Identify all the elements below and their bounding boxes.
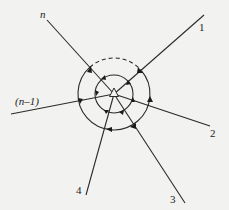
arrow-icon xyxy=(147,96,153,102)
label-1: 1 xyxy=(199,21,205,33)
node-triangle-icon xyxy=(110,88,119,97)
outer-loop-dashed-arc xyxy=(90,58,141,70)
branch-2 xyxy=(114,94,210,126)
label-3: 3 xyxy=(170,193,176,205)
label-4: 4 xyxy=(76,184,82,196)
label-n: n xyxy=(40,8,46,20)
label-n-minus-1: (n–1) xyxy=(15,95,39,108)
arrow-icon xyxy=(119,110,124,115)
label-2: 2 xyxy=(210,127,216,139)
branch-n xyxy=(47,20,114,94)
branch-loop-diagram: n 1 (n–1) 2 3 4 xyxy=(0,0,229,210)
branch-4 xyxy=(86,94,114,195)
arrow-icon xyxy=(95,90,99,96)
